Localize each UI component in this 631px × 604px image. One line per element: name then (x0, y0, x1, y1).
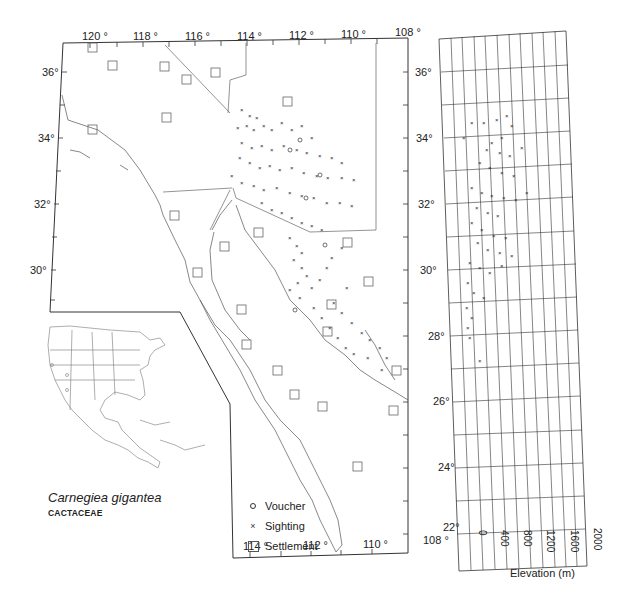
legend-item-voucher: Voucher (245, 496, 318, 516)
sighting-markers: ××× ××× ××× ××× ××× ××× ××× ××× ××× ××× … (230, 107, 389, 373)
lat-right-26: 26° (433, 395, 450, 407)
svg-text:×: × (366, 355, 370, 361)
svg-text:×: × (300, 123, 304, 129)
legend-label: Settlement (265, 540, 318, 552)
svg-text:×: × (508, 153, 512, 159)
svg-text:×: × (305, 273, 309, 279)
svg-text:×: × (248, 160, 252, 166)
svg-text:×: × (278, 167, 282, 173)
svg-text:×: × (498, 250, 502, 256)
lat-right-32: 32° (418, 198, 435, 210)
svg-text:×: × (478, 160, 482, 166)
svg-text:×: × (300, 193, 304, 199)
legend-item-settlement: Settlement (245, 536, 318, 556)
svg-text:×: × (486, 247, 490, 253)
svg-text:×: × (470, 315, 474, 321)
sighting-x-icon: × (245, 522, 261, 531)
svg-text:×: × (475, 205, 479, 211)
svg-text:×: × (310, 223, 314, 229)
svg-text:×: × (295, 243, 299, 249)
svg-text:×: × (472, 290, 476, 296)
svg-text:×: × (296, 280, 300, 286)
svg-text:×: × (470, 120, 474, 126)
svg-text:×: × (298, 295, 302, 301)
lon-label-118: 118 ° (133, 30, 158, 42)
svg-text:×: × (492, 233, 496, 239)
svg-text:×: × (260, 143, 264, 149)
svg-text:×: × (288, 287, 292, 293)
svg-text:×: × (302, 170, 306, 176)
svg-text:×: × (240, 107, 244, 113)
svg-text:×: × (295, 147, 299, 153)
elev-tick-1200: 1200 (545, 530, 556, 552)
svg-text:×: × (340, 245, 344, 251)
svg-text:×: × (504, 235, 508, 241)
svg-text:×: × (280, 120, 284, 126)
lon-label-112: 112 ° (289, 29, 314, 41)
svg-text:×: × (514, 197, 518, 203)
coastline (62, 95, 408, 552)
svg-text:×: × (482, 295, 486, 301)
svg-text:×: × (290, 215, 294, 221)
svg-text:×: × (500, 135, 504, 141)
svg-text:×: × (498, 150, 502, 156)
svg-text:×: × (525, 190, 529, 196)
legend-item-sighting: × Sighting (245, 516, 318, 536)
svg-text:×: × (520, 145, 524, 151)
svg-text:×: × (512, 173, 516, 179)
svg-text:×: × (465, 305, 469, 311)
svg-text:×: × (495, 117, 499, 123)
svg-text:×: × (325, 265, 329, 271)
elev-tick-2000: 2000 (592, 528, 603, 550)
family-name: CACTACEAE (48, 508, 103, 518)
svg-text:×: × (466, 325, 470, 331)
svg-text:×: × (345, 285, 349, 291)
voucher-markers (288, 138, 327, 312)
svg-text:×: × (462, 135, 466, 141)
species-name: Carnegiea gigantea (48, 490, 161, 505)
elev-tick-0: 0 (477, 530, 488, 536)
svg-text:×: × (340, 175, 344, 181)
lon-label-120: 120 ° (82, 30, 108, 42)
elevation-axis-title: Elevation (m) (510, 567, 575, 579)
svg-text:×: × (330, 255, 334, 261)
svg-text:×: × (466, 280, 470, 286)
svg-text:×: × (290, 165, 294, 171)
voucher-circle-icon (245, 503, 261, 509)
svg-text:×: × (338, 200, 342, 206)
svg-text:×: × (326, 175, 330, 181)
svg-text:×: × (496, 213, 500, 219)
svg-text:×: × (510, 123, 514, 129)
svg-text:×: × (300, 265, 304, 271)
svg-text:×: × (252, 127, 256, 133)
svg-text:×: × (350, 203, 354, 209)
svg-text:×: × (318, 277, 322, 283)
svg-text:×: × (336, 335, 340, 341)
lat-right-22: 22° (443, 521, 460, 533)
svg-text:×: × (288, 190, 292, 196)
lon-label-110: 110 ° (341, 28, 366, 40)
distribution-figure: ××× ××× ××× ××× ××× ××× ××× ××× ××× ××× … (0, 0, 631, 604)
lat-right-34: 34° (416, 132, 433, 144)
svg-text:×: × (350, 320, 354, 326)
svg-text:×: × (378, 345, 382, 351)
svg-text:×: × (262, 187, 266, 193)
svg-text:×: × (262, 123, 266, 129)
svg-text:×: × (478, 358, 482, 364)
svg-text:×: × (385, 355, 389, 361)
elevation-panel (439, 31, 587, 571)
svg-text:×: × (255, 115, 259, 121)
svg-text:×: × (340, 160, 344, 166)
elev-tick-1600: 1600 (569, 530, 580, 552)
svg-text:×: × (300, 220, 304, 226)
svg-text:×: × (268, 163, 272, 169)
svg-text:×: × (490, 140, 494, 146)
svg-text:×: × (488, 165, 492, 171)
svg-text:×: × (328, 325, 332, 331)
svg-text:×: × (468, 335, 472, 341)
lat-right-24: 24° (438, 461, 455, 473)
svg-text:×: × (485, 147, 489, 153)
svg-text:×: × (500, 263, 504, 269)
legend: Voucher × Sighting Settlement (245, 496, 318, 556)
lat-right-36: 36° (415, 66, 432, 78)
